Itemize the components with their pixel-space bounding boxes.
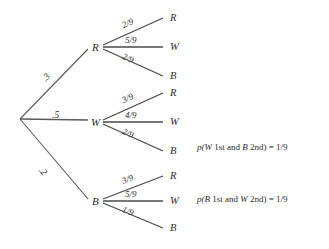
probability-tree-diagram: .3 .5 .2 R W B 2/9 5/9 2/9 R W B 3/9 4/9…	[0, 0, 329, 249]
second-level-prob-B-W: 5/9	[125, 190, 137, 199]
leaf-B-R: R	[170, 171, 176, 182]
annotation-1-mid: 1st and	[212, 142, 242, 152]
annotation-2-mid: 1st and	[210, 194, 240, 204]
tree-branches-svg	[0, 0, 329, 249]
leaf-R-B: B	[170, 71, 176, 82]
node-level1-R: R	[92, 42, 99, 53]
leaf-R-R: R	[170, 13, 176, 24]
second-level-prob-W-W: 4/9	[125, 111, 137, 120]
annotation-1-first-letter: W	[205, 142, 213, 152]
annotation-2-suffix: 2nd) = 1/9	[248, 194, 288, 204]
annotation-p-w-first-b-second: p(W 1st and B 2nd) = 1/9	[197, 142, 288, 152]
leaf-W-W: W	[170, 117, 179, 128]
annotation-p-b-first-w-second: p(B 1st and W 2nd) = 1/9	[197, 194, 288, 204]
annotation-2-second-letter: W	[240, 194, 248, 204]
node-level1-B: B	[92, 196, 99, 207]
leaf-W-B: B	[170, 146, 176, 157]
first-level-prob-W: .5	[52, 111, 59, 121]
second-level-prob-R-W: 5/9	[125, 36, 137, 45]
branch-R-to-B	[103, 49, 163, 76]
branch-root-to-R	[20, 49, 88, 119]
leaf-R-W: W	[170, 42, 179, 53]
branch-W-to-B	[103, 124, 163, 151]
annotation-2-prefix: p(	[197, 194, 205, 204]
annotation-1-suffix: 2nd) = 1/9	[248, 142, 288, 152]
branch-root-to-B	[20, 119, 88, 199]
leaf-B-B: B	[170, 223, 176, 234]
node-level1-W: W	[91, 117, 100, 128]
leaf-B-W: W	[170, 196, 179, 207]
leaf-W-R: R	[170, 88, 176, 99]
annotation-1-prefix: p(	[197, 142, 205, 152]
